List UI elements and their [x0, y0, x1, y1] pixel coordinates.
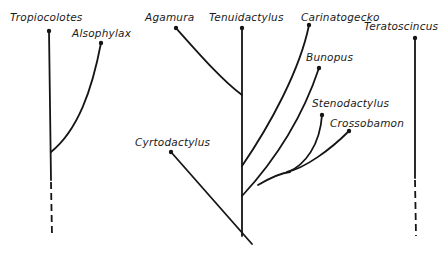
agamura-branch [176, 28, 242, 95]
alsophylax-branch [51, 43, 101, 152]
tropiocolotes-branch [49, 31, 51, 180]
bunopus-tip [317, 66, 321, 70]
agamura-tip [174, 26, 178, 30]
bunopus-branch [242, 68, 319, 196]
phylogenetic-tree: Tropiocolotes Alsophylax Agamura Tenuida… [0, 0, 444, 256]
tenuidactylus-tip [240, 26, 244, 30]
carinatogecko-tip [307, 23, 311, 27]
teratoscincus-tip [413, 36, 417, 40]
alsophylax-tip [99, 41, 103, 45]
stenodactylus-branch [288, 115, 322, 172]
label-tenuidactylus: Tenuidactylus [209, 11, 284, 23]
label-stenodactylus: Stenodactylus [312, 97, 389, 109]
label-teratoscincus: Teratoscincus [364, 20, 439, 32]
label-tropiocolotes: Tropiocolotes [10, 11, 83, 23]
tropiocolotes-tip [47, 29, 51, 33]
central-clade: Agamura Tenuidactylus Carinatogecko Buno… [135, 11, 404, 244]
crossobamon-tip [347, 129, 351, 133]
label-alsophylax: Alsophylax [71, 27, 132, 39]
left-clade: Tropiocolotes Alsophylax [10, 11, 132, 236]
stenodactylus-tip [320, 113, 324, 117]
cyrtodactylus-branch [171, 152, 252, 244]
stenodactylus-crossobamon-stem [258, 172, 290, 185]
carinatogecko-branch [242, 25, 309, 166]
label-agamura: Agamura [144, 11, 194, 23]
label-crossobamon: Crossobamon [330, 117, 404, 129]
cyrtodactylus-tip [169, 150, 173, 154]
tropiocolotes-dashed-base [51, 182, 52, 236]
label-cyrtodactylus: Cyrtodactylus [135, 136, 211, 148]
label-bunopus: Bunopus [306, 51, 353, 63]
teratoscincus-dashed-base [415, 180, 416, 236]
